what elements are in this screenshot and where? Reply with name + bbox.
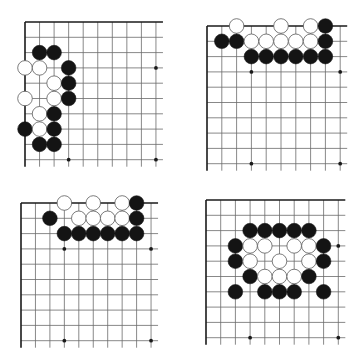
white-stone <box>72 211 87 226</box>
white-stone <box>272 254 287 269</box>
white-stone <box>32 122 47 137</box>
black-stone <box>272 285 287 300</box>
white-stone <box>18 91 33 106</box>
black-stone <box>318 34 333 49</box>
star-point <box>250 70 254 74</box>
white-stone <box>32 61 47 76</box>
star-point <box>67 158 71 162</box>
black-stone <box>129 211 144 226</box>
star-point <box>154 66 158 70</box>
white-stone <box>115 211 130 226</box>
white-stone <box>289 34 304 49</box>
white-stone <box>229 19 244 34</box>
star-point <box>149 339 153 343</box>
white-stone <box>274 34 289 49</box>
white-stone <box>244 34 259 49</box>
white-stone <box>258 239 273 254</box>
star-point <box>154 158 158 162</box>
black-stone <box>47 122 62 137</box>
black-stone <box>243 223 258 238</box>
white-stone <box>272 269 287 284</box>
black-stone <box>129 196 144 211</box>
black-stone <box>318 19 333 34</box>
black-stone <box>32 137 47 152</box>
white-stone <box>32 107 47 122</box>
black-stone <box>18 122 33 137</box>
star-point <box>62 247 66 251</box>
star-point <box>248 336 252 340</box>
white-stone <box>287 239 302 254</box>
black-stone <box>47 45 62 60</box>
black-stone <box>258 223 273 238</box>
white-stone <box>258 269 273 284</box>
black-stone <box>316 254 331 269</box>
white-stone <box>47 76 62 91</box>
white-stone <box>259 34 274 49</box>
white-stone <box>302 254 317 269</box>
black-stone <box>244 49 259 64</box>
black-stone <box>100 226 115 241</box>
black-stone <box>287 223 302 238</box>
black-stone <box>258 285 273 300</box>
black-stone <box>115 226 130 241</box>
star-point <box>149 247 153 251</box>
go-diagram-canvas <box>0 0 358 359</box>
black-stone <box>289 49 304 64</box>
star-point <box>336 336 340 340</box>
black-stone <box>86 226 101 241</box>
black-stone <box>57 226 72 241</box>
black-stone <box>318 49 333 64</box>
black-stone <box>61 76 76 91</box>
white-stone <box>115 196 130 211</box>
white-stone <box>287 269 302 284</box>
black-stone <box>47 137 62 152</box>
black-stone <box>47 107 62 122</box>
black-stone <box>32 45 47 60</box>
black-stone <box>61 91 76 106</box>
star-point <box>338 70 342 74</box>
black-stone <box>228 285 243 300</box>
black-stone <box>272 223 287 238</box>
star-point <box>62 339 66 343</box>
star-point <box>338 162 342 166</box>
black-stone <box>129 226 144 241</box>
black-stone <box>316 239 331 254</box>
black-stone <box>72 226 87 241</box>
white-stone <box>302 239 317 254</box>
white-stone <box>18 61 33 76</box>
white-stone <box>47 91 62 106</box>
white-stone <box>100 211 115 226</box>
white-stone <box>57 196 72 211</box>
black-stone <box>243 269 258 284</box>
black-stone <box>259 49 274 64</box>
black-stone <box>302 269 317 284</box>
black-stone <box>274 49 289 64</box>
black-stone <box>215 34 230 49</box>
star-point <box>250 162 254 166</box>
black-stone <box>303 49 318 64</box>
black-stone <box>229 34 244 49</box>
black-stone <box>287 285 302 300</box>
white-stone <box>86 196 101 211</box>
black-stone <box>228 254 243 269</box>
white-stone <box>274 19 289 34</box>
black-stone <box>302 223 317 238</box>
black-stone <box>316 285 331 300</box>
black-stone <box>43 211 58 226</box>
white-stone <box>243 239 258 254</box>
black-stone <box>228 239 243 254</box>
white-stone <box>243 254 258 269</box>
star-point <box>336 244 340 248</box>
white-stone <box>303 19 318 34</box>
white-stone <box>303 34 318 49</box>
white-stone <box>86 211 101 226</box>
black-stone <box>61 61 76 76</box>
